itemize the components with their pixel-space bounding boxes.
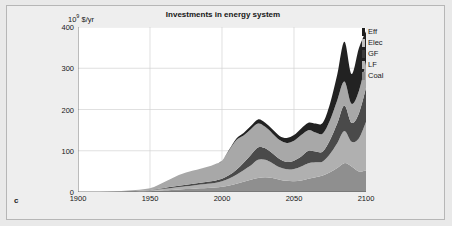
legend-item-lf[interactable]: LF	[362, 60, 406, 70]
legend-item-elec[interactable]: Elec	[362, 38, 406, 48]
legend-item-label: Eff	[368, 28, 377, 36]
x-tick-label: 1900	[70, 194, 87, 203]
x-axis-tick-labels: 19001950200020502100	[78, 194, 366, 208]
y-axis-unit-suffix: $/yr	[79, 15, 94, 24]
legend-item-label: Coal	[368, 72, 383, 80]
chart-title: Investments in energy system	[108, 10, 338, 19]
stacked-area-chart	[78, 27, 366, 192]
legend-item-label: GF	[368, 50, 378, 58]
legend-swatch-icon	[362, 50, 365, 58]
y-tick-label: 400	[48, 23, 74, 32]
panel-label: c	[14, 196, 18, 205]
y-tick-label: 200	[48, 105, 74, 114]
legend-swatch-icon	[362, 28, 365, 36]
x-tick-label: 1950	[142, 194, 159, 203]
legend-swatch-icon	[362, 61, 365, 69]
legend-swatch-icon	[362, 72, 365, 80]
legend-item-label: Elec	[368, 39, 383, 47]
legend-item-coal[interactable]: Coal	[362, 71, 406, 81]
y-tick-label: 100	[48, 146, 74, 155]
legend-item-eff[interactable]: Eff	[362, 27, 406, 37]
legend-item-gf[interactable]: GF	[362, 49, 406, 59]
legend-swatch-icon	[362, 39, 365, 47]
x-tick-label: 2000	[214, 194, 231, 203]
figure-panel: c Investments in energy system 109 $/yr …	[0, 0, 452, 226]
y-tick-label: 300	[48, 64, 74, 73]
x-tick-label: 2100	[358, 194, 375, 203]
chart-legend: EffElecGFLFCoal	[362, 27, 406, 82]
y-axis-tick-labels: 0100200300400	[48, 27, 74, 192]
plot-area	[78, 27, 366, 192]
x-tick-label: 2050	[286, 194, 303, 203]
legend-item-label: LF	[368, 61, 377, 69]
